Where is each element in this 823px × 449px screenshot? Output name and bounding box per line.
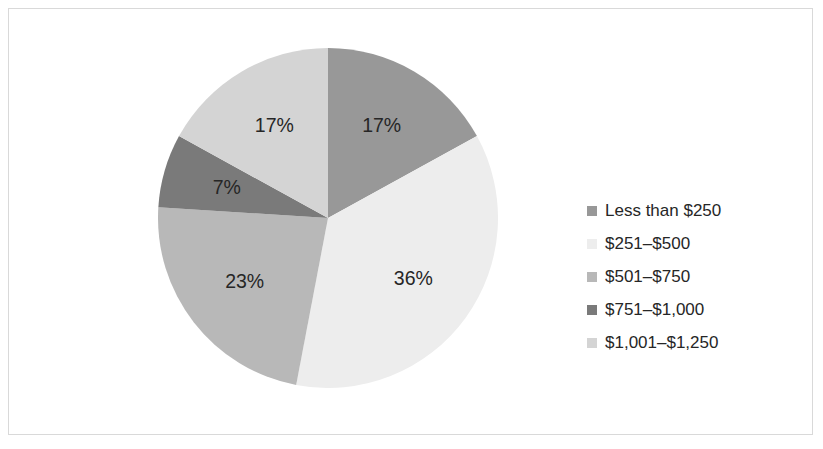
legend-item[interactable]: Less than $250 [587,194,802,227]
legend-color-swatch-icon [587,338,597,348]
legend-item-label: $1,001–$1,250 [605,334,718,351]
legend-color-swatch-icon [587,239,597,249]
legend-color-swatch-icon [587,272,597,282]
pie-slice-data-label: 7% [213,176,241,198]
pie-chart-figure: 17%36%23%7%17% Less than $250$251–$500$5… [0,0,823,449]
legend-color-swatch-icon [587,206,597,216]
pie-slice-data-label: 17% [362,114,401,136]
pie-svg: 17%36%23%7%17% [158,48,498,388]
pie-slice-data-label: 23% [225,270,264,292]
chart-legend: Less than $250$251–$500$501–$750$751–$1,… [587,194,802,359]
legend-item[interactable]: $1,001–$1,250 [587,326,802,359]
legend-item[interactable]: $251–$500 [587,227,802,260]
legend-item[interactable]: $501–$750 [587,260,802,293]
legend-item-label: $251–$500 [605,235,690,252]
pie-graphic: 17%36%23%7%17% [158,48,498,388]
legend-item-label: Less than $250 [605,202,721,219]
legend-color-swatch-icon [587,305,597,315]
pie-slice-data-label: 17% [255,114,294,136]
legend-item-label: $501–$750 [605,268,690,285]
chart-plot-area: 17%36%23%7%17% Less than $250$251–$500$5… [9,9,812,434]
pie-slice-data-label: 36% [394,267,433,289]
pie-slices-group [158,48,498,388]
legend-item-label: $751–$1,000 [605,301,704,318]
legend-item[interactable]: $751–$1,000 [587,293,802,326]
